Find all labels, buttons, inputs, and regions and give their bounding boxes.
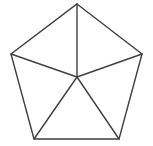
spoke-center-to-bottom-right (77, 77, 119, 139)
spoke-center-to-bottom-left (34, 77, 77, 139)
pentagon-diagram-canvas (0, 0, 153, 146)
pentagon-figure (0, 0, 153, 146)
spoke-center-to-left (11, 54, 77, 77)
spoke-center-to-right (77, 54, 142, 77)
